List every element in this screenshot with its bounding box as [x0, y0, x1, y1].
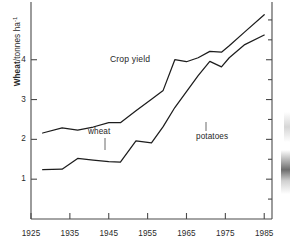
plot-wrapper: Wheat/tonnes ha-1 Crop yield wheat potat… [0, 0, 290, 251]
x-tick-label: 1975 [205, 229, 245, 238]
y-tick-label: 2 [14, 134, 26, 143]
series-label-potatoes: potatoes [196, 132, 228, 141]
x-tick-label: 1985 [244, 229, 284, 238]
y-tick-marks [31, 60, 37, 179]
axes-group [31, 2, 272, 219]
y-tick-label: 1 [14, 174, 26, 183]
y-tick-marks-right [266, 20, 272, 199]
y-axis-title: Wheat/tonnes ha-1 [12, 0, 23, 106]
x-tick-marks [31, 213, 264, 219]
x-tick-label: 1925 [11, 229, 51, 238]
crop-yield-figure: Wheat/tonnes ha-1 Crop yield wheat potat… [0, 0, 290, 251]
chart-canvas [0, 0, 290, 251]
x-tick-label: 1955 [128, 229, 168, 238]
line-series-wheat [43, 15, 265, 133]
y-tick-label: 3 [14, 95, 26, 104]
x-tick-label: 1935 [50, 229, 90, 238]
x-tick-label: 1965 [166, 229, 206, 238]
chart-inline-title: Crop yield [110, 54, 150, 64]
line-series-potatoes [43, 35, 265, 170]
y-axis-title-bold: Wheat [13, 61, 22, 86]
series-label-wheat: wheat [88, 127, 110, 136]
y-tick-label: 4 [14, 55, 26, 64]
y-axis-title-exponent: -1 [12, 16, 18, 22]
x-tick-label: 1945 [89, 229, 129, 238]
